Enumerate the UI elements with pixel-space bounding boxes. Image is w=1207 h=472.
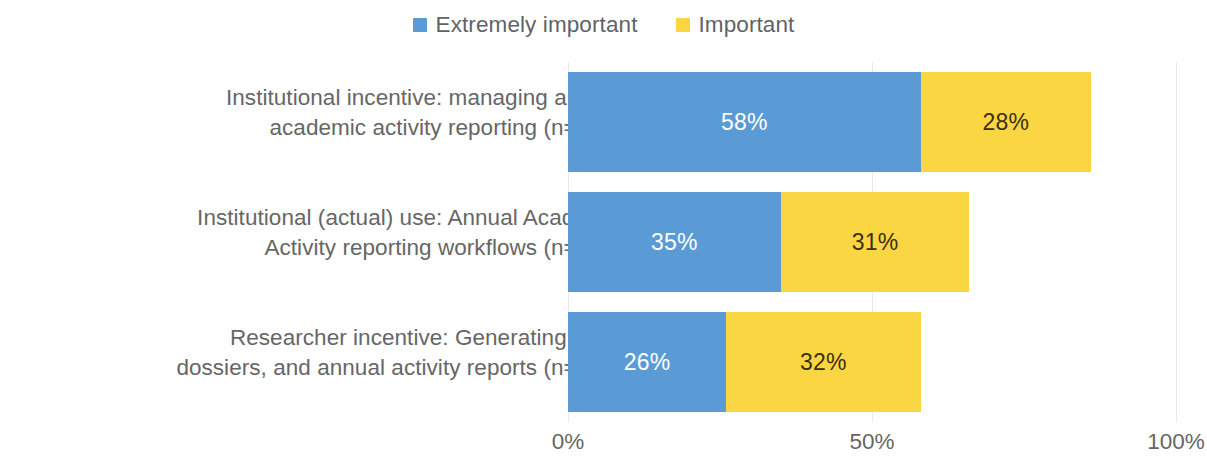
legend-item-extremely-important[interactable]: Extremely important — [413, 14, 638, 37]
x-axis-tick-50: 50% — [849, 428, 894, 455]
bar-segment-extremely-important[interactable]: 58% — [568, 72, 921, 172]
bar-value-label: 31% — [852, 231, 899, 254]
bar-value-label: 28% — [982, 111, 1029, 134]
bar-row-3: 26% 32% — [568, 312, 1176, 412]
bar-row-1: 58% 28% — [568, 72, 1176, 172]
gridline-100 — [1176, 62, 1177, 422]
bar-segment-extremely-important[interactable]: 26% — [568, 312, 726, 412]
x-axis: 0% 50% 100% — [568, 428, 1176, 468]
bar-value-label: 26% — [624, 351, 671, 374]
category-label-line: dossiers, and annual activity reports (n… — [82, 353, 622, 383]
bar-segment-important[interactable]: 28% — [921, 72, 1091, 172]
category-label-3: Researcher incentive: Generating CVs, do… — [82, 323, 622, 383]
x-axis-tick-100: 100% — [1147, 428, 1205, 455]
category-label-2: Institutional (actual) use: Annual Acade… — [82, 203, 622, 263]
category-label-line: Researcher incentive: Generating CVs, — [82, 323, 622, 353]
legend-label: Extremely important — [436, 14, 638, 37]
bar-value-label: 58% — [721, 111, 768, 134]
bar-value-label: 32% — [800, 351, 847, 374]
bar-value-label: 35% — [651, 231, 698, 254]
category-label-line: Institutional incentive: managing annual — [82, 83, 622, 113]
category-label-1: Institutional incentive: managing annual… — [82, 83, 622, 143]
bar-row-2: 35% 31% — [568, 192, 1176, 292]
bar-segment-extremely-important[interactable]: 35% — [568, 192, 781, 292]
category-label-line: academic activity reporting (n=222) — [82, 113, 622, 143]
stacked-bar-chart: Extremely important Important Institutio… — [0, 0, 1207, 472]
plot-area: 58% 28% 35% 31% 26% 32% — [568, 62, 1176, 422]
legend-swatch-icon — [676, 18, 690, 32]
legend-label: Important — [699, 14, 795, 37]
category-label-line: Activity reporting workflows (n=203) — [82, 233, 622, 263]
legend-swatch-icon — [413, 18, 427, 32]
bar-segment-important[interactable]: 32% — [726, 312, 921, 412]
category-label-line: Institutional (actual) use: Annual Acade… — [82, 203, 622, 233]
legend-item-important[interactable]: Important — [676, 14, 795, 37]
x-axis-tick-0: 0% — [552, 428, 585, 455]
bar-segment-important[interactable]: 31% — [781, 192, 969, 292]
chart-legend: Extremely important Important — [0, 8, 1207, 42]
